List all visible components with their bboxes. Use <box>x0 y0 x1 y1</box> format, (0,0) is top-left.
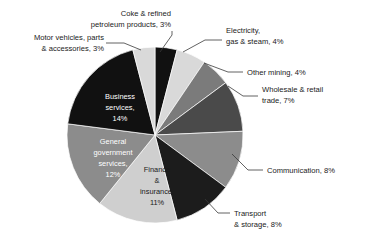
label-electricity-line-1: Electricity, <box>226 26 260 35</box>
label-motor-vehicles-line-1: Motor vehicles, parts <box>34 33 104 42</box>
outer-label-electricity-gas-steam: Electricity, gas & steam, 4% <box>226 26 284 46</box>
outer-label-coke-refined-petroleum-products: Coke & refined petroleum products, 3% <box>91 9 171 29</box>
outer-label-motor-vehicles-parts-accessories: Motor vehicles, parts & accessories, 3% <box>34 33 104 53</box>
label-finance-line-2: & <box>155 176 160 185</box>
label-general-government-line-3: services, <box>98 159 127 168</box>
label-electricity-line-2: gas & steam, 4% <box>226 37 284 46</box>
label-finance-line-1: Finance <box>144 165 170 174</box>
label-transport-line-2: & storage, 8% <box>234 220 282 229</box>
outer-label-communication: Communication, 8% <box>267 166 335 175</box>
label-wholesale-line-1: Wholesale & retail <box>262 85 324 94</box>
leader-line-electricity-gas-steam <box>183 40 222 52</box>
pie-chart-figure: Coke & refined petroleum products, 3% Mo… <box>0 0 366 248</box>
label-finance-line-4: 11% <box>150 198 165 207</box>
label-communication-line-1: Communication, 8% <box>267 166 335 175</box>
label-general-government-line-2: government <box>93 148 132 157</box>
outer-label-wholesale-retail-trade: Wholesale & retail trade, 7% <box>262 85 324 105</box>
label-other-mining-line-1: Other mining, 4% <box>247 68 306 77</box>
label-coke-line-2: petroleum products, 3% <box>91 20 171 29</box>
label-transport-line-1: Transport <box>234 209 267 218</box>
label-general-government-line-4: 12% <box>106 170 121 179</box>
label-business-services-line-1: Business <box>105 92 135 101</box>
label-coke-line-1: Coke & refined <box>121 9 171 18</box>
pie-chart-svg: Coke & refined petroleum products, 3% Mo… <box>0 0 366 248</box>
label-motor-vehicles-line-2: & accessories, 3% <box>42 44 105 53</box>
label-wholesale-line-2: trade, 7% <box>262 96 295 105</box>
label-finance-line-3: insurance, <box>140 187 174 196</box>
label-general-government-line-1: General <box>100 137 127 146</box>
outer-label-transport-storage: Transport & storage, 8% <box>234 209 282 229</box>
label-business-services-line-2: services, <box>105 103 134 112</box>
label-business-services-line-3: 14% <box>113 114 128 123</box>
outer-label-other-mining: Other mining, 4% <box>247 68 306 77</box>
